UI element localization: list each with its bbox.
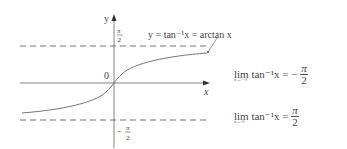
x-axis-arrow-icon [203,81,210,86]
lower-minus-label: − [117,127,122,136]
limit-subscript: x→−∞ [234,77,248,82]
limit-subscript: x→∞ [234,119,245,124]
curve-label: y = tan⁻¹x = arctan x [148,29,232,40]
lower-two-label: 2 [126,134,130,142]
x-axis-label: x [203,86,209,97]
upper-pi-label: π [117,27,121,35]
label-pointer [208,38,217,52]
origin-label: 0 [104,70,109,81]
limit-fraction: π 2 [300,63,308,86]
y-axis-label: y [104,13,109,24]
upper-two-label: 2 [118,36,122,44]
limit-pos-infinity: lim tan⁻¹x = π 2 x→∞ [234,105,299,128]
y-axis-arrow-icon [112,14,117,21]
limit-fraction: π 2 [291,105,299,128]
lower-pi-label: π [126,124,130,132]
limit-neg-infinity: lim tan⁻¹x = − π 2 x→−∞ [234,63,308,86]
